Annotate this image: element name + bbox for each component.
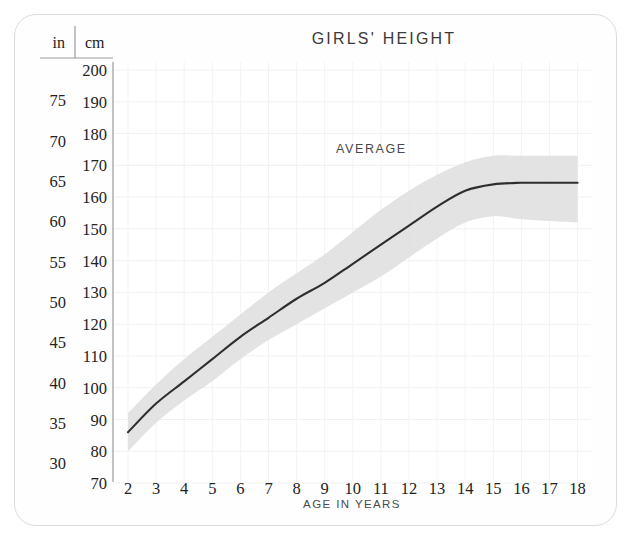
girls-height-chart: in cm GIRLS' HEIGHT AVERAGE AGE IN YEARS…	[0, 0, 633, 541]
cm-tick-label: 200	[82, 61, 107, 80]
average-annotation: AVERAGE	[336, 142, 407, 156]
age-tick-label: 2	[124, 479, 132, 498]
page-title: GIRLS' HEIGHT	[312, 30, 457, 47]
cm-tick-label: 80	[91, 442, 108, 461]
in-tick-label: 70	[50, 132, 67, 151]
in-tick-label: 35	[50, 414, 67, 433]
age-tick-label: 6	[236, 479, 244, 498]
unit-header-in: in	[53, 34, 65, 51]
age-tick-label: 9	[321, 479, 329, 498]
in-tick-label: 50	[50, 293, 67, 312]
age-tick-label: 3	[152, 479, 160, 498]
in-tick-label: 60	[50, 212, 67, 231]
cm-tick-label: 90	[91, 411, 108, 430]
age-tick-label: 7	[264, 479, 272, 498]
in-tick-label: 45	[50, 333, 67, 352]
x-axis-label: AGE IN YEARS	[303, 498, 401, 510]
in-tick-label: 55	[50, 253, 67, 272]
in-tick-label: 75	[50, 91, 67, 110]
age-tick-label: 11	[373, 479, 389, 498]
age-tick-label: 4	[180, 479, 188, 498]
age-tick-label: 10	[345, 479, 362, 498]
cm-tick-label: 150	[82, 220, 107, 239]
age-tick-label: 8	[292, 479, 300, 498]
in-tick-label: 40	[50, 374, 67, 393]
cm-tick-label: 160	[82, 188, 107, 207]
age-tick-label: 13	[429, 479, 446, 498]
cm-tick-group: 200190180170160150140130120110100908070	[82, 61, 107, 493]
unit-header-cm: cm	[85, 34, 105, 51]
age-tick-label: 5	[208, 479, 216, 498]
in-tick-group: 75706560555045403530	[50, 91, 67, 473]
chart-stage: in cm GIRLS' HEIGHT AVERAGE AGE IN YEARS…	[0, 0, 633, 541]
cm-tick-label: 180	[82, 125, 107, 144]
cm-tick-label: 130	[82, 283, 107, 302]
cm-tick-label: 190	[82, 93, 107, 112]
cm-tick-label: 100	[82, 379, 107, 398]
age-tick-label: 12	[401, 479, 418, 498]
cm-tick-label: 110	[83, 347, 107, 366]
age-tick-label: 14	[457, 479, 474, 498]
cm-tick-label: 170	[82, 156, 107, 175]
age-tick-label: 16	[513, 479, 530, 498]
in-tick-label: 65	[50, 172, 67, 191]
cm-tick-label: 70	[91, 474, 108, 493]
age-tick-label: 15	[485, 479, 502, 498]
cm-tick-label: 120	[82, 315, 107, 334]
age-tick-label: 17	[541, 479, 558, 498]
cm-tick-label: 140	[82, 252, 107, 271]
in-tick-label: 30	[50, 454, 67, 473]
age-tick-label: 18	[569, 479, 586, 498]
